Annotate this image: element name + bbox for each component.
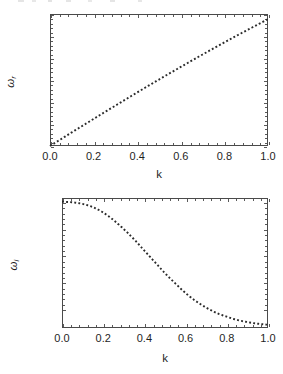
axis-tick [112, 199, 113, 201]
x-axis-title-bottom: k [62, 352, 268, 364]
axis-tick [154, 199, 155, 201]
axis-tick [195, 325, 196, 327]
x-tick-label: 0.2 [96, 333, 111, 344]
axis-tick [265, 246, 267, 247]
axis-tick [269, 199, 270, 202]
axis-tick [63, 278, 65, 279]
axis-tick [269, 324, 270, 327]
axis-tick [170, 325, 171, 327]
axis-tick [244, 199, 245, 201]
axis-tick [170, 199, 171, 201]
axis-tick [203, 325, 204, 327]
axis-tick [79, 199, 80, 201]
axis-tick [154, 325, 155, 327]
axis-tick [145, 324, 146, 327]
x-tick-label: 1.0 [260, 333, 275, 344]
axis-tick [63, 289, 65, 290]
axis-tick [88, 325, 89, 327]
axis-tick [178, 199, 179, 201]
axis-tick [121, 325, 122, 327]
axis-tick [63, 305, 65, 306]
axis-tick [104, 199, 105, 202]
axis-tick [265, 214, 267, 215]
axis-tick [63, 246, 65, 247]
axis-tick [265, 305, 267, 306]
axis-tick [129, 199, 130, 201]
x-tick-label: 0.6 [178, 333, 193, 344]
axis-tick [211, 325, 212, 327]
axis-tick [63, 294, 65, 295]
axis-tick [228, 199, 229, 202]
axis-tick [265, 235, 267, 236]
axis-tick [129, 325, 130, 327]
axis-tick [63, 240, 65, 241]
axis-tick [63, 224, 65, 225]
axis-tick [79, 325, 80, 327]
axis-tick [203, 199, 204, 201]
axis-tick [88, 199, 89, 201]
omega-subscript-bottom: i [12, 260, 21, 262]
axis-tick [121, 199, 122, 201]
axis-tick [63, 230, 66, 231]
curve-omega-imag [0, 0, 283, 190]
axis-tick [264, 310, 267, 311]
axis-tick [63, 251, 65, 252]
axis-tick [265, 208, 267, 209]
axis-tick [264, 283, 267, 284]
axis-tick [112, 325, 113, 327]
axis-tick [63, 203, 66, 204]
axis-tick [244, 325, 245, 327]
x-tick-label: 0.8 [219, 333, 234, 344]
axis-tick [228, 324, 229, 327]
axis-tick [63, 235, 65, 236]
axis-tick [265, 267, 267, 268]
axis-tick [253, 199, 254, 201]
axis-tick [96, 199, 97, 201]
axis-tick [63, 299, 65, 300]
axis-tick [145, 199, 146, 202]
y-axis-title-bottom: ωi [7, 260, 23, 271]
axis-tick [137, 199, 138, 201]
axis-tick [265, 251, 267, 252]
axis-tick [63, 310, 66, 311]
axis-tick [211, 199, 212, 201]
x-tick-label: 0.4 [137, 333, 152, 344]
axis-tick [63, 208, 65, 209]
axis-tick [63, 267, 65, 268]
axis-tick [264, 230, 267, 231]
axis-tick [264, 256, 267, 257]
axis-tick [265, 240, 267, 241]
axis-tick [265, 219, 267, 220]
axis-tick [137, 325, 138, 327]
axis-tick [71, 325, 72, 327]
axis-tick [162, 199, 163, 201]
axis-tick [261, 325, 262, 327]
axis-tick [63, 324, 64, 327]
axis-tick [187, 324, 188, 327]
axis-tick [63, 214, 65, 215]
axis-tick [264, 203, 267, 204]
axis-tick [265, 278, 267, 279]
axis-tick [265, 273, 267, 274]
axis-tick [265, 262, 267, 263]
axis-tick [220, 199, 221, 201]
omega-glyph-bottom: ω [7, 261, 19, 270]
axis-tick [63, 219, 65, 220]
axis-tick [261, 199, 262, 201]
axis-tick [178, 325, 179, 327]
axis-tick [236, 199, 237, 201]
axis-tick [63, 256, 66, 257]
axis-tick [104, 324, 105, 327]
axis-tick [162, 325, 163, 327]
axis-tick [195, 199, 196, 201]
axis-tick [63, 273, 65, 274]
axis-tick [220, 325, 221, 327]
axis-tick [63, 262, 65, 263]
axis-tick [265, 289, 267, 290]
axis-tick [236, 325, 237, 327]
plot-frame-bottom [62, 198, 268, 328]
axis-tick [71, 199, 72, 201]
axis-tick [265, 294, 267, 295]
axis-tick [265, 224, 267, 225]
axis-tick [96, 325, 97, 327]
